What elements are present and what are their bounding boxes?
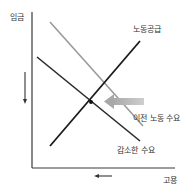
new-equilibrium-point	[89, 100, 93, 104]
supply-label: 노동공급	[133, 25, 161, 34]
demand-shift-arrow-icon	[104, 94, 144, 109]
labor-market-diagram: 임금 고용 노동공급 이전 노동 수요 감소한 수요	[0, 0, 192, 193]
old-demand-curve	[50, 22, 143, 126]
employment-decrease-arrow-icon	[94, 174, 112, 178]
x-axis-label: 고용	[163, 176, 177, 185]
wage-decrease-arrow-icon	[23, 72, 27, 104]
y-axis-label: 임금	[10, 13, 24, 22]
old-demand-label: 이전 노동 수요	[133, 113, 180, 123]
new-demand-label: 감소한 수요	[117, 145, 155, 155]
